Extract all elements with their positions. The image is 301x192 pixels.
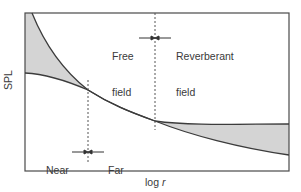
near-field-label-line1: Near — [46, 164, 69, 176]
x-axis-label-variable: r — [162, 176, 166, 188]
free-field-label-line2: field — [112, 86, 134, 98]
spl-vs-distance-diagram: Free field Reverberant field Near field … — [0, 0, 301, 192]
reverberant-field-label-line1: Reverberant — [176, 50, 234, 62]
far-field-label-line1: Far — [108, 164, 127, 176]
reverberant-field-label: Reverberant field — [176, 26, 234, 122]
x-axis-label: log r — [145, 176, 165, 188]
shaded-region-reverberant — [155, 121, 289, 155]
near-field-label: Near field — [46, 140, 69, 192]
far-field-label: Far field — [108, 140, 127, 192]
reverberant-field-label-line2: field — [176, 86, 234, 98]
x-axis-label-prefix: log — [145, 176, 162, 188]
y-axis-label: SPL — [2, 70, 14, 90]
total-spl-curve — [25, 73, 289, 124]
free-reverberant-arrows — [139, 36, 171, 40]
free-field-label: Free field — [112, 26, 134, 122]
free-field-label-line1: Free — [112, 50, 134, 62]
